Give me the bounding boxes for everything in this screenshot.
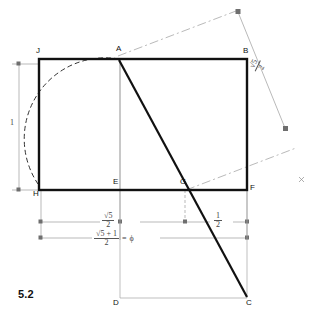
figure-number: 5.2: [18, 288, 34, 300]
dim-line-diag-upper: [118, 11, 236, 56]
tick-left-top: [17, 62, 21, 66]
diagonal-dimension-lines: [118, 11, 296, 190]
phi-symbol: ϕ: [129, 235, 133, 243]
figure-container: J A B H E G F D C 1 √5 2 1 2 √5 + 1 2 = …: [0, 0, 310, 319]
extension-lines: [12, 58, 247, 240]
point-label-C: C: [246, 299, 252, 307]
tick-left-bottom: [17, 188, 21, 192]
point-label-G: G: [180, 178, 186, 186]
point-label-B: B: [243, 47, 248, 55]
dimension-label-height: 1: [10, 118, 14, 127]
point-label-A: A: [116, 45, 121, 53]
point-label-F: F: [250, 184, 255, 192]
point-label-H: H: [33, 190, 39, 198]
half-denominator: 2: [214, 221, 222, 229]
dimension-label-half: 1 2: [214, 212, 222, 230]
tick-row1-h: [39, 220, 43, 224]
point-label-J: J: [36, 47, 40, 55]
tick-row2-h: [39, 236, 43, 240]
dim-line-diag-lower: [186, 148, 296, 190]
point-label-E: E: [113, 178, 118, 186]
rectangle-JBFH: [39, 59, 247, 190]
dimension-label-phi: √5 + 1 2 = ϕ: [94, 230, 134, 248]
tick-row1-g: [183, 220, 187, 224]
phi-denominator: 2: [94, 239, 119, 247]
stray-tick-icon: [299, 177, 304, 182]
geometry-diagram: [0, 0, 310, 319]
tick-diag-bottom: [283, 126, 288, 131]
tick-diag-top: [236, 9, 241, 14]
point-label-D: D: [113, 299, 119, 307]
phi-equals-sign: =: [122, 235, 127, 243]
dimension-label-half-root5: √5 2: [102, 212, 114, 230]
